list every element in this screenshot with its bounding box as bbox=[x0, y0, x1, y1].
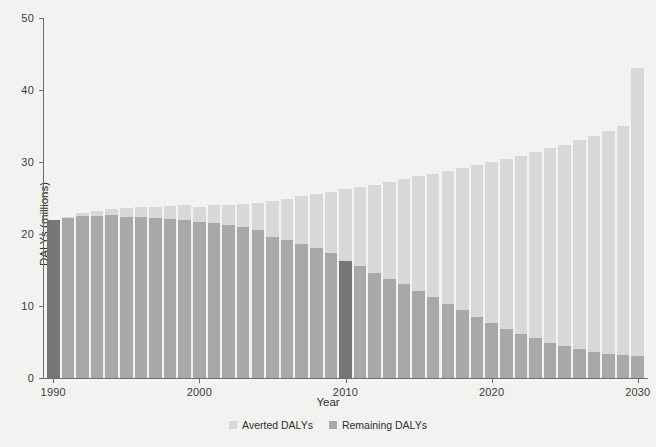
bar-segment-averted bbox=[252, 203, 265, 230]
bar-column[interactable] bbox=[412, 18, 425, 378]
bar-segment-remaining bbox=[588, 352, 601, 378]
bar-segment-averted bbox=[237, 204, 250, 226]
bar-column[interactable] bbox=[208, 18, 221, 378]
bar-segment-averted bbox=[339, 189, 352, 260]
y-axis-tick bbox=[39, 18, 43, 19]
bar-segment-remaining bbox=[252, 230, 265, 378]
bar-column[interactable] bbox=[631, 18, 644, 378]
bar-column[interactable] bbox=[164, 18, 177, 378]
bar-segment-remaining bbox=[471, 317, 484, 378]
chart-container: DALYs (millions) Year Averted DALYsRemai… bbox=[0, 0, 656, 447]
bar-segment-averted bbox=[222, 205, 235, 225]
bar-column[interactable] bbox=[544, 18, 557, 378]
bar-column[interactable] bbox=[617, 18, 630, 378]
bar-column[interactable] bbox=[193, 18, 206, 378]
bar-column[interactable] bbox=[222, 18, 235, 378]
bar-column[interactable] bbox=[252, 18, 265, 378]
bar-column[interactable] bbox=[398, 18, 411, 378]
bar-column[interactable] bbox=[558, 18, 571, 378]
bar-column[interactable] bbox=[310, 18, 323, 378]
bar-column[interactable] bbox=[588, 18, 601, 378]
y-axis-tick bbox=[39, 90, 43, 91]
bar-segment-averted bbox=[602, 131, 615, 353]
bar-column[interactable] bbox=[105, 18, 118, 378]
bar-segment-remaining bbox=[178, 220, 191, 378]
bar-column[interactable] bbox=[471, 18, 484, 378]
bar-column[interactable] bbox=[485, 18, 498, 378]
y-axis-tick-label: 10 bbox=[4, 300, 34, 312]
legend-label: Averted DALYs bbox=[242, 419, 313, 431]
bar-segment-averted bbox=[178, 205, 191, 220]
chart-legend: Averted DALYsRemaining DALYs bbox=[0, 419, 656, 431]
y-axis-tick bbox=[39, 378, 43, 379]
bar-segment-remaining bbox=[310, 248, 323, 378]
bar-column[interactable] bbox=[515, 18, 528, 378]
bar-column[interactable] bbox=[266, 18, 279, 378]
bar-column[interactable] bbox=[91, 18, 104, 378]
bar-segment-averted bbox=[427, 174, 440, 298]
bar-segment-remaining bbox=[208, 223, 221, 378]
bar-segment-averted bbox=[631, 68, 644, 355]
bar-column[interactable] bbox=[281, 18, 294, 378]
bar-segment-averted bbox=[412, 176, 425, 290]
legend-item[interactable]: Remaining DALYs bbox=[329, 419, 427, 431]
bar-segment-averted bbox=[529, 152, 542, 338]
bar-column[interactable] bbox=[76, 18, 89, 378]
bar-segment-remaining bbox=[631, 356, 644, 378]
bar-segment-remaining bbox=[398, 284, 411, 378]
bar-segment-averted bbox=[325, 192, 338, 254]
bar-segment-remaining bbox=[149, 218, 162, 378]
bar-segment-remaining bbox=[617, 355, 630, 378]
legend-item[interactable]: Averted DALYs bbox=[229, 419, 313, 431]
bar-segment-averted bbox=[617, 126, 630, 355]
bar-segment-remaining bbox=[76, 216, 89, 378]
bar-segment-averted bbox=[588, 136, 601, 352]
bar-segment-remaining bbox=[515, 334, 528, 378]
bar-column[interactable] bbox=[237, 18, 250, 378]
bar-column[interactable] bbox=[178, 18, 191, 378]
bar-segment-remaining bbox=[237, 227, 250, 378]
bar-column[interactable] bbox=[573, 18, 586, 378]
x-axis-tick bbox=[199, 379, 200, 383]
legend-swatch-icon bbox=[329, 421, 337, 429]
bar-segment-averted bbox=[485, 162, 498, 323]
x-axis-tick bbox=[638, 379, 639, 383]
bar-segment-averted bbox=[149, 207, 162, 219]
bar-column[interactable] bbox=[602, 18, 615, 378]
bar-column[interactable] bbox=[529, 18, 542, 378]
bar-segment-remaining bbox=[427, 297, 440, 378]
bar-segment-remaining bbox=[47, 220, 60, 378]
y-axis-tick-label: 30 bbox=[4, 156, 34, 168]
y-axis-tick bbox=[39, 234, 43, 235]
bar-segment-averted bbox=[135, 207, 148, 216]
bar-column[interactable] bbox=[120, 18, 133, 378]
bar-segment-averted bbox=[120, 208, 133, 217]
bar-segment-averted bbox=[471, 165, 484, 317]
bar-column[interactable] bbox=[339, 18, 352, 378]
bar-segment-averted bbox=[558, 145, 571, 347]
bar-segment-averted bbox=[266, 201, 279, 237]
bar-column[interactable] bbox=[456, 18, 469, 378]
bar-segment-remaining bbox=[295, 244, 308, 378]
x-axis-tick-label: 2000 bbox=[179, 386, 219, 398]
bar-column[interactable] bbox=[325, 18, 338, 378]
bar-column[interactable] bbox=[500, 18, 513, 378]
bar-column[interactable] bbox=[149, 18, 162, 378]
bar-column[interactable] bbox=[354, 18, 367, 378]
bar-column[interactable] bbox=[383, 18, 396, 378]
bar-segment-averted bbox=[456, 168, 469, 311]
x-axis-tick bbox=[53, 379, 54, 383]
bar-segment-remaining bbox=[325, 253, 338, 378]
bar-column[interactable] bbox=[427, 18, 440, 378]
bar-segment-remaining bbox=[222, 225, 235, 378]
bar-column[interactable] bbox=[368, 18, 381, 378]
bar-column[interactable] bbox=[442, 18, 455, 378]
bar-segment-remaining bbox=[105, 215, 118, 378]
bar-column[interactable] bbox=[47, 18, 60, 378]
bar-column[interactable] bbox=[295, 18, 308, 378]
bar-segment-averted bbox=[193, 207, 206, 223]
bar-segment-remaining bbox=[281, 240, 294, 378]
x-axis-tick-label: 2010 bbox=[326, 386, 366, 398]
bar-column[interactable] bbox=[62, 18, 75, 378]
bar-column[interactable] bbox=[135, 18, 148, 378]
